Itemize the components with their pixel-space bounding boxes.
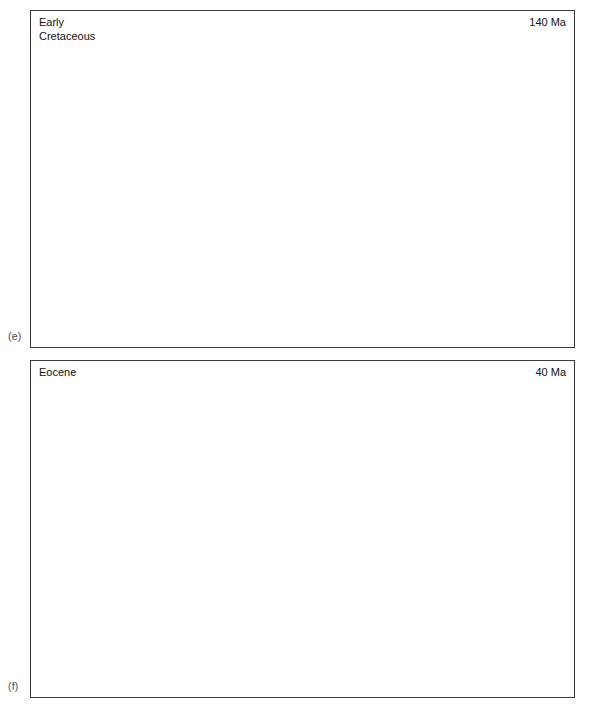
panel-border-f [30, 360, 575, 698]
age-label-f: 40 Ma [535, 366, 566, 378]
era-label-e: Early Cretaceous [39, 16, 95, 43]
panel-border-e [30, 10, 575, 348]
era-label-f: Eocene [39, 366, 76, 380]
age-label-e: 140 Ma [529, 16, 566, 28]
panel-early-cretaceous: Early Cretaceous 140 Ma 60°N30°N0°30°S60… [30, 10, 575, 348]
panel-tag-e: (e) [8, 330, 21, 342]
paleogeographic-figure: Early Cretaceous 140 Ma 60°N30°N0°30°S60… [0, 0, 591, 710]
panel-eocene: Eocene 40 Ma 60°N30°N0°30°S60°S [30, 360, 575, 698]
panel-tag-f: (f) [8, 680, 19, 692]
